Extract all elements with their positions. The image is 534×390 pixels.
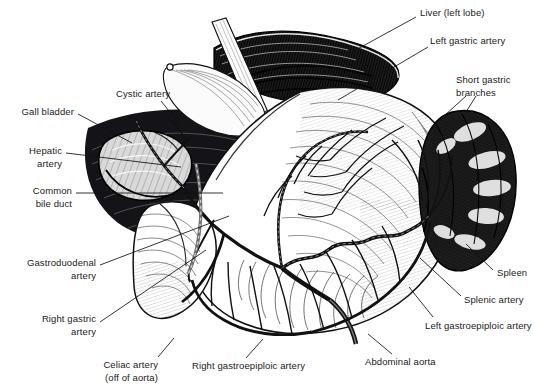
label-gastroduodenal-artery: Gastroduodenalartery [0, 257, 96, 282]
label-liver-left-lobe: Liver (left lobe) [420, 7, 485, 20]
label-right-gastroepiploic-artery: Right gastroepiploic artery [192, 360, 305, 373]
label-left-gastric-artery: Left gastric artery [430, 35, 505, 48]
label-cystic-artery: Cystic artery [116, 88, 170, 101]
illustration-canvas: Liver (left lobe) Left gastric artery Sh… [0, 0, 534, 390]
label-spleen: Spleen [497, 267, 527, 280]
label-right-gastric-artery: Right gastricartery [0, 313, 96, 338]
label-celiac-artery: Celiac artery(off of aorta) [50, 359, 158, 384]
label-short-gastric-branches: Short gastricbranches [456, 74, 511, 99]
label-abdominal-aorta: Abdominal aorta [365, 356, 436, 369]
label-hepatic-artery: Hepaticartery [0, 145, 62, 170]
label-gall-bladder: Gall bladder [0, 106, 74, 119]
label-common-bile-duct: Commonbile duct [0, 185, 72, 210]
label-left-gastroepiploic-artery: Left gastroepiploic artery [425, 320, 532, 333]
label-splenic-artery: Splenic artery [464, 294, 523, 307]
